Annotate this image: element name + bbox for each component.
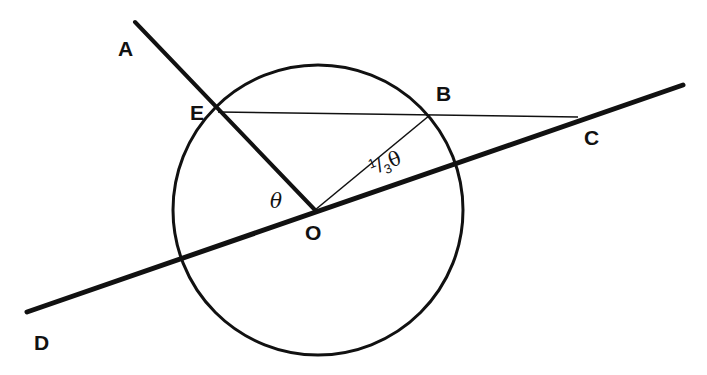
- line-a-to-o: [135, 22, 315, 210]
- point-label-d: D: [34, 332, 49, 353]
- angle-label-theta: θ: [270, 191, 282, 211]
- point-label-c: C: [584, 127, 599, 148]
- point-label-a: A: [118, 38, 133, 59]
- point-label-e: E: [190, 102, 204, 123]
- point-label-o: O: [305, 222, 321, 243]
- geometry-diagram: [0, 0, 707, 375]
- point-label-b: B: [436, 83, 451, 104]
- line-d-to-c: [27, 85, 683, 312]
- line-e-to-c: [218, 112, 578, 117]
